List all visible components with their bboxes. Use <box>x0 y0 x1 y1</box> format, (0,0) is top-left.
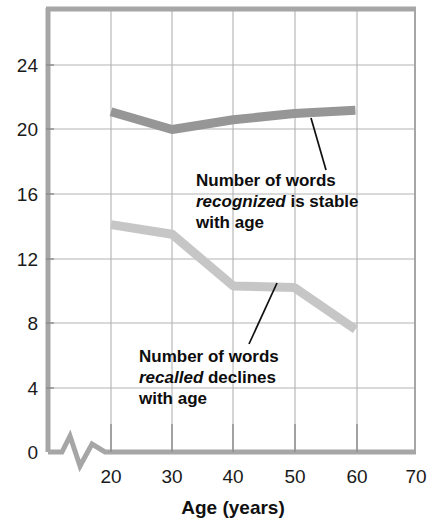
y-tick-label-24: 24 <box>17 55 39 76</box>
x-tick-label-50: 50 <box>284 466 305 487</box>
annotation-recognized-line3: with age <box>195 213 264 232</box>
line-chart: 24 20 16 12 8 4 0 20 30 40 50 60 70 Age … <box>0 0 433 524</box>
x-tick-label-30: 30 <box>161 466 182 487</box>
annotation-recalled-line1: Number of words <box>139 347 279 366</box>
x-tick-label-70: 70 <box>405 466 426 487</box>
chart-figure: 24 20 16 12 8 4 0 20 30 40 50 60 70 Age … <box>0 0 433 524</box>
x-tick-label-20: 20 <box>100 466 121 487</box>
y-tick-label-12: 12 <box>17 249 38 270</box>
annotation-recalled-line2-rest: declines <box>203 368 276 387</box>
x-tick-labels: 20 30 40 50 60 70 <box>100 466 426 487</box>
annotation-recognized-emphasis: recognized <box>196 192 286 211</box>
y-tick-label-0: 0 <box>27 442 38 463</box>
x-tick-label-60: 60 <box>346 466 367 487</box>
annotation-recognized-line2: recognized is stable <box>196 192 359 211</box>
y-tick-label-20: 20 <box>17 119 38 140</box>
annotation-recognized-line1: Number of words <box>196 171 336 190</box>
y-tick-label-4: 4 <box>27 378 38 399</box>
y-tick-label-16: 16 <box>17 184 38 205</box>
y-tick-labels: 24 20 16 12 8 4 0 <box>17 55 39 463</box>
annotation-recalled-emphasis: recalled <box>139 368 204 387</box>
x-axis-title: Age (years) <box>181 497 285 518</box>
annotation-recognized-line2-rest: is stable <box>286 192 359 211</box>
annotation-recalled-line3: with age <box>138 389 207 408</box>
y-tick-label-8: 8 <box>27 313 38 334</box>
annotation-recalled-line2: recalled declines <box>139 368 276 387</box>
x-tick-label-40: 40 <box>222 466 243 487</box>
